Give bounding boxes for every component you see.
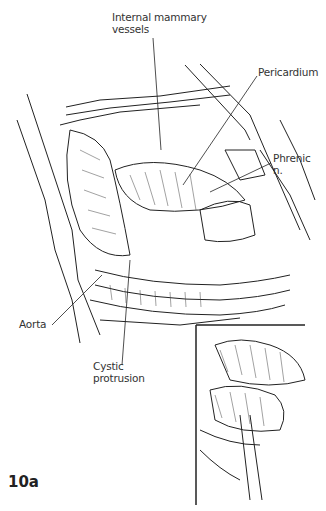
label-pericardium: Pericardium xyxy=(258,66,318,78)
leader-cystic xyxy=(122,260,130,365)
label-cystic-protrusion: Cystic protrusion xyxy=(93,360,145,384)
label-line: Aorta xyxy=(19,318,46,330)
label-line: n. xyxy=(273,164,310,176)
leader-phrenic xyxy=(210,163,271,192)
label-internal-mammary-vessels: Internal mammary vessels xyxy=(112,11,207,35)
label-aorta: Aorta xyxy=(19,318,46,330)
label-line: Phrenic xyxy=(273,152,310,164)
label-line: Cystic xyxy=(93,360,145,372)
label-line: protrusion xyxy=(93,372,145,384)
label-phrenic-nerve: Phrenic n. xyxy=(273,152,310,176)
label-line: Pericardium xyxy=(258,66,318,78)
figure-number: 10a xyxy=(8,473,39,491)
label-line: vessels xyxy=(112,23,207,35)
leader-internal-mammary xyxy=(153,38,161,150)
leader-aorta xyxy=(52,275,102,325)
leader-pericardium xyxy=(183,76,257,185)
left-retractor xyxy=(27,94,100,335)
label-line: Internal mammary xyxy=(112,11,207,23)
